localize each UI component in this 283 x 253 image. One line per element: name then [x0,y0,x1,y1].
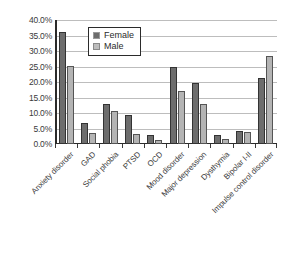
bar-male [111,111,118,144]
y-axis-tick-label: 20.0% [10,78,52,87]
bar-female [258,78,265,144]
bar-group [255,20,277,144]
x-axis-tick [210,144,232,149]
y-axis-tick-label: 15.0% [10,93,52,102]
y-axis-tick-label: 10.0% [10,109,52,118]
bar-group [188,20,210,144]
bar-female [125,115,132,144]
x-axis-category-label: OCD [146,150,165,169]
bar-female [59,32,66,144]
y-axis-tick-label: 35.0% [10,31,52,40]
bar-chart: 40.0%35.0%30.0%25.0%20.0%15.0%10.0%5.0%0… [0,0,283,253]
bar-male [200,104,207,144]
chart-legend: Female Male [88,27,141,56]
y-axis-tick-label: 25.0% [10,62,52,71]
bar-female [236,131,243,144]
bar-female [147,135,154,144]
x-axis-tick [166,144,188,149]
y-axis-tick-label: 5.0% [10,124,52,133]
y-axis-tick-label: 40.0% [10,16,52,25]
bar-group [210,20,232,144]
x-axis-labels: Anxiety disorderGADSocial phobiaPTSDOCDM… [55,150,277,253]
bar-female [170,67,177,144]
legend-label-male: Male [104,41,124,51]
legend-item-male: Male [93,41,134,51]
y-axis-tick-label: 0.0% [10,140,52,149]
x-axis-category-label: GAD [79,150,97,168]
x-axis-tick [255,144,277,149]
bar-female [214,135,221,144]
x-axis-tick [99,144,121,149]
bar-male [266,56,273,144]
x-axis-ticks [55,144,277,149]
bar-female [103,104,110,144]
bar-male [244,132,251,144]
bar-male [89,133,96,144]
bar-group [55,20,77,144]
y-axis: 40.0%35.0%30.0%25.0%20.0%15.0%10.0%5.0%0… [8,0,52,253]
bar-female [81,123,88,144]
x-axis-tick [77,144,99,149]
y-axis-tick-label: 30.0% [10,47,52,56]
male-swatch-icon [93,43,100,50]
x-axis-category-label: PTSD [121,150,142,171]
x-axis-tick [55,144,77,149]
legend-item-female: Female [93,30,134,40]
bar-group [233,20,255,144]
bar-male [133,134,140,144]
female-swatch-icon [93,32,100,39]
bar-male [178,91,185,144]
x-axis-tick [144,144,166,149]
bar-male [67,66,74,144]
x-axis-tick [188,144,210,149]
bar-female [192,83,199,144]
bar-group [144,20,166,144]
bar-group [166,20,188,144]
x-axis-tick [233,144,255,149]
x-axis-tick [122,144,144,149]
legend-label-female: Female [104,30,134,40]
